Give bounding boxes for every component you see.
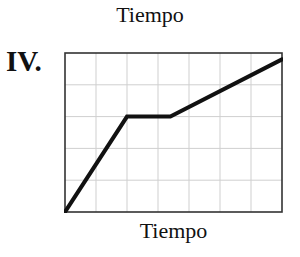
data-line bbox=[65, 59, 282, 212]
x-axis-label: Tiempo bbox=[64, 218, 283, 244]
panel-label: IV. bbox=[6, 46, 42, 76]
line-chart bbox=[64, 52, 283, 213]
chart-title: Tiempo bbox=[0, 2, 300, 28]
